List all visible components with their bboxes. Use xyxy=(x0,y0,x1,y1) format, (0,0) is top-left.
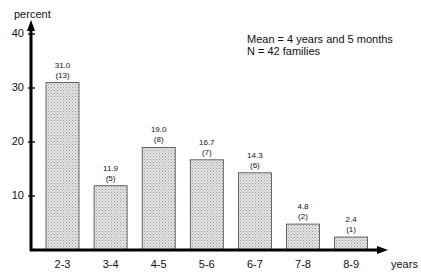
bar-5-6 xyxy=(190,160,223,250)
y-axis-arrow xyxy=(27,20,35,31)
bar-7-8 xyxy=(287,224,320,250)
bar-8-9 xyxy=(335,237,368,250)
x-category-label: 5-6 xyxy=(187,258,227,270)
x-axis-title: years xyxy=(391,258,418,270)
y-tick-label-40: 40 xyxy=(0,27,24,39)
bar-value-label: 19.0(8) xyxy=(139,125,179,145)
x-category-label: 3-4 xyxy=(91,258,131,270)
x-category-label: 7-8 xyxy=(283,258,323,270)
x-category-label: 4-5 xyxy=(139,258,179,270)
annotation-n: N = 42 families xyxy=(247,45,393,57)
bar-2-3 xyxy=(46,83,79,250)
y-tick-label-30: 30 xyxy=(0,81,24,93)
y-tick-label-10: 10 xyxy=(0,189,24,201)
bar-value-label: 4.8(2) xyxy=(283,202,323,222)
bar-3-4 xyxy=(94,186,127,250)
y-axis-title: percent xyxy=(14,8,51,20)
bar-value-label: 11.9(5) xyxy=(91,164,131,184)
x-category-label: 8-9 xyxy=(331,258,371,270)
bar-value-label: 31.0(13) xyxy=(43,61,83,81)
annotation-mean: Mean = 4 years and 5 months xyxy=(247,33,393,45)
x-axis-arrow xyxy=(377,246,388,254)
x-category-label: 2-3 xyxy=(43,258,83,270)
bar-value-label: 2.4(1) xyxy=(331,215,371,235)
chart-annotation: Mean = 4 years and 5 months N = 42 famil… xyxy=(247,33,393,57)
y-tick-label-20: 20 xyxy=(0,135,24,147)
x-category-label: 6-7 xyxy=(235,258,275,270)
bar-6-7 xyxy=(238,173,271,250)
bar-value-label: 16.7(7) xyxy=(187,138,227,158)
bar-value-label: 14.3(6) xyxy=(235,151,275,171)
bar-4-5 xyxy=(142,147,175,250)
